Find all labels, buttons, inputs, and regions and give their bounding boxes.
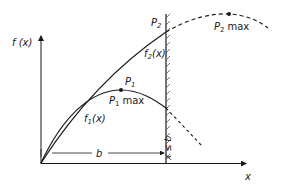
p1-max-label: P1max (109, 95, 144, 108)
curve-f1-solid (41, 90, 166, 163)
optimization-diagram: f (x) x (0, 0, 282, 192)
p1-label: P1 (125, 76, 136, 89)
dimension-b-label: b (96, 148, 102, 159)
p2-label: P2 (151, 17, 162, 30)
y-axis-label: f (x) (12, 37, 32, 48)
f1-label: f1(x) (84, 113, 106, 126)
f2-label: f2(x) (144, 48, 166, 61)
dimension-b (41, 149, 164, 157)
constraint-label: x ≤ b (163, 135, 173, 161)
p2-max-label: P2max (214, 21, 249, 34)
p1-max-point (119, 88, 123, 92)
p2-max-point (227, 12, 231, 16)
x-axis-label: x (244, 171, 251, 182)
